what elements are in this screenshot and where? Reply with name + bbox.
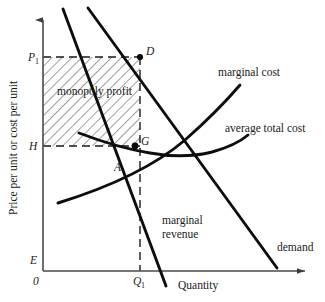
- point-D-marker: [137, 54, 143, 60]
- monopoly-profit-diagram: monopoly profit marginal cost average to…: [0, 0, 325, 302]
- monopoly-profit-label: monopoly profit: [57, 85, 133, 98]
- origin-label: 0: [33, 275, 39, 287]
- demand-label: demand: [277, 241, 314, 253]
- point-G-label: G: [141, 135, 150, 147]
- y-tick-P1-subscript: 1: [35, 57, 39, 66]
- y-tick-E-label: E: [29, 254, 37, 266]
- marginal-revenue-label-line1: marginal: [162, 214, 203, 227]
- marginal-revenue-label-line2: revenue: [162, 228, 198, 240]
- point-A-label: A: [113, 161, 122, 173]
- y-tick-P1-label: P: [27, 51, 35, 63]
- y-axis-title: Price per unit or cost per unit: [7, 80, 20, 215]
- diagram-canvas: monopoly profit marginal cost average to…: [0, 0, 325, 302]
- average-total-cost-label: average total cost: [225, 122, 306, 135]
- point-G-marker: [132, 143, 139, 150]
- canvas-background: [0, 0, 325, 302]
- point-D-label: D: [145, 45, 155, 57]
- y-tick-H-label: H: [28, 140, 38, 152]
- marginal-cost-label: marginal cost: [218, 66, 281, 79]
- monopoly-profit-region: [43, 57, 140, 146]
- x-tick-Q1-subscript: 1: [141, 281, 145, 290]
- x-axis-title: Quantity: [178, 279, 218, 292]
